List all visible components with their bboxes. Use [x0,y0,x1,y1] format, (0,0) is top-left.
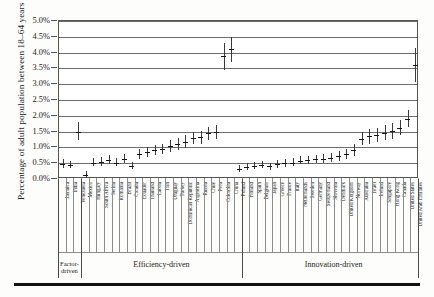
category-divider [135,178,136,252]
y-axis-tick-label: 4.5% [33,31,50,40]
category-divider [73,178,74,252]
point-marker [60,164,65,165]
category-divider [311,178,312,252]
chart-figure: Percentage of adult population between 1… [0,0,434,297]
category-divider [341,178,342,252]
group-band: Factor-drivenEfficiency-drivenInnovation… [58,252,418,278]
point-marker [145,152,150,153]
point-marker [91,163,96,164]
point-marker [367,136,372,137]
point-marker [214,132,219,133]
category-divider [188,178,189,252]
y-axis-tick-label: 5.0% [33,16,50,25]
point-marker [344,154,349,155]
y-axis-tick-mark [51,115,57,116]
y-axis-tick-label: 1.5% [33,126,50,135]
category-divider [395,178,396,252]
y-axis-tick-label: 3.5% [33,63,50,72]
category-divider [265,178,266,252]
y-axis-tick-mark [51,146,57,147]
point-marker [106,160,111,161]
point-marker [374,135,379,136]
point-marker [122,159,127,160]
category-divider [196,178,197,252]
category-divider [295,178,296,252]
y-axis-tick-label: 3.0% [33,79,50,88]
y-axis-tick-mark [51,131,57,132]
category-divider [227,178,228,252]
category-divider [219,178,220,252]
category-divider [119,178,120,252]
point-marker [160,149,165,150]
point-marker [405,119,410,120]
y-axis-tick-label: 1.0% [33,142,50,151]
point-marker [152,150,157,151]
category-divider [349,178,350,252]
point-marker [275,164,280,165]
y-axis-tick-mark [51,20,57,21]
category-divider [112,178,113,252]
category-divider [158,178,159,252]
category-divider [249,178,250,252]
category-divider [410,178,411,252]
category-divider [173,178,174,252]
category-divider [364,178,365,252]
point-marker [321,159,326,160]
category-divider [380,178,381,252]
point-marker [413,65,418,66]
point-marker [114,163,119,164]
category-divider [234,178,235,252]
category-divider [272,178,273,252]
group-label: Factor-driven [58,260,81,275]
point-marker [267,166,272,167]
category-divider [280,178,281,252]
y-axis-tick-label: 2.5% [33,95,50,104]
y-axis-tick-label: 4.0% [33,47,50,56]
category-divider [150,178,151,252]
point-marker [76,132,81,133]
point-marker [328,158,333,159]
category-divider [326,178,327,252]
point-marker [175,144,180,145]
category-divider [403,178,404,252]
y-axis-tick-label: 0.0% [33,174,50,183]
point-marker [137,154,142,155]
category-divider [142,178,143,252]
point-marker [282,163,287,164]
category-divider [96,178,97,252]
category-divider [318,178,319,252]
point-marker [359,139,364,140]
y-axis-ticks: 0.0%0.5%1.0%1.5%2.0%2.5%3.0%3.5%4.0%4.5%… [0,20,58,178]
point-marker [252,166,257,167]
point-marker [129,166,134,167]
point-marker [206,133,211,134]
group-label: Efficiency-driven [81,260,242,269]
point-marker [99,162,104,163]
category-divider [104,178,105,252]
category-divider [257,178,258,252]
point-marker [237,169,242,170]
category-axis: JamaicaIndiaVenezuelaMexicoHungarySouth … [58,178,418,252]
point-marker [290,163,295,164]
group-label: Innovation-driven [242,260,426,269]
category-divider [165,178,166,252]
point-marker [305,160,310,161]
category-divider [211,178,212,252]
category-divider [181,178,182,252]
point-marker [259,165,264,166]
category-divider [204,178,205,252]
point-marker [390,131,395,132]
point-marker [397,128,402,129]
point-marker [183,142,188,143]
data-series [59,21,417,177]
category-divider [288,178,289,252]
category-divider [89,178,90,252]
category-divider [303,178,304,252]
y-axis-tick-mark [51,67,57,68]
point-marker [83,175,88,176]
category-divider [334,178,335,252]
point-marker [221,56,226,57]
point-marker [68,165,73,166]
category-divider [357,178,358,252]
point-marker [191,138,196,139]
